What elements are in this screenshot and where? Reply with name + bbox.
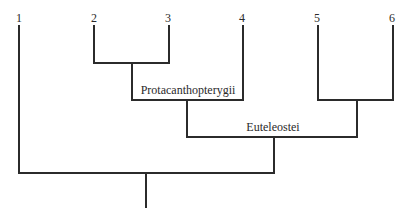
taxon-label-3: 3 bbox=[165, 12, 171, 24]
branch-taxon-1 bbox=[18, 25, 20, 173]
branch-taxon-2 bbox=[93, 25, 95, 63]
clade-label-euteleostei: Euteleostei bbox=[246, 121, 299, 133]
stem-5-6 bbox=[356, 99, 358, 137]
stem-euteleostei bbox=[273, 136, 275, 173]
taxon-label-5: 5 bbox=[314, 12, 320, 24]
root-stem bbox=[145, 172, 147, 208]
branch-taxon-4 bbox=[242, 25, 244, 100]
taxon-label-4: 4 bbox=[239, 12, 245, 24]
stem-protacanthopterygii bbox=[186, 99, 188, 137]
taxon-label-1: 1 bbox=[16, 12, 22, 24]
stem-2-3 bbox=[131, 62, 133, 100]
branch-taxon-6 bbox=[392, 25, 394, 100]
taxon-label-6: 6 bbox=[389, 12, 395, 24]
cladogram: 1 2 3 4 5 6 Protacanthopterygii Euteleos… bbox=[0, 0, 410, 219]
node-euteleostei-bar bbox=[186, 136, 358, 138]
branch-taxon-3 bbox=[168, 25, 170, 63]
taxon-label-2: 2 bbox=[91, 12, 97, 24]
clade-label-protacanthopterygii: Protacanthopterygii bbox=[141, 84, 236, 96]
branch-taxon-5 bbox=[317, 25, 319, 100]
